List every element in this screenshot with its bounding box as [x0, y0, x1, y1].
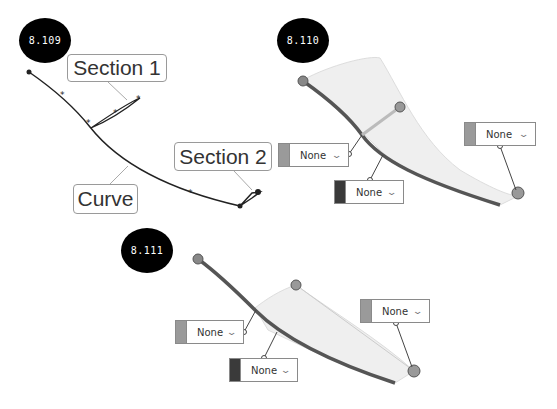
chevron-down-icon[interactable]: ⌄ — [227, 327, 238, 337]
section-2-label: Section 2 — [174, 142, 272, 171]
section-1-label: Section 1 — [67, 54, 167, 82]
color-swatch — [176, 321, 187, 343]
chevron-down-icon[interactable]: ⌄ — [332, 150, 343, 160]
svg-text:*: * — [113, 108, 118, 118]
figure-8-109-drawing: * * * * * — [27, 70, 262, 209]
dropdown-value: None — [251, 365, 282, 376]
color-swatch — [465, 123, 476, 145]
section-dropdown[interactable]: None ⌄ — [334, 180, 404, 204]
section-dropdown[interactable]: None ⌄ — [278, 143, 349, 167]
color-swatch — [361, 300, 372, 322]
dropdown-value: None — [197, 327, 228, 338]
svg-text:*: * — [60, 90, 65, 100]
color-swatch — [279, 144, 290, 166]
chevron-down-icon[interactable]: ⌄ — [281, 365, 292, 375]
dropdown-value: None — [300, 150, 333, 161]
dropdown-value: None — [382, 306, 414, 317]
section-dropdown[interactable]: None ⌄ — [229, 358, 298, 382]
figure-badge-8-109: 8.109 — [19, 18, 71, 63]
svg-text:*: * — [188, 188, 193, 198]
curve-label: Curve — [73, 184, 138, 214]
svg-text:*: * — [136, 94, 141, 104]
figure-badge-8-110: 8.110 — [277, 18, 329, 63]
section-dropdown[interactable]: None ⌄ — [360, 299, 430, 323]
chevron-down-icon[interactable]: ⌄ — [519, 129, 530, 139]
dropdown-value: None — [356, 187, 388, 198]
section-dropdown[interactable]: None ⌄ — [464, 122, 536, 146]
section-dropdown[interactable]: None ⌄ — [175, 320, 244, 344]
dropdown-value: None — [486, 129, 520, 140]
color-swatch — [335, 181, 346, 203]
color-swatch — [230, 359, 241, 381]
figure-badge-8-111: 8.111 — [121, 228, 173, 273]
svg-text:*: * — [86, 118, 91, 128]
chevron-down-icon[interactable]: ⌄ — [387, 187, 398, 197]
chevron-down-icon[interactable]: ⌄ — [413, 306, 424, 316]
